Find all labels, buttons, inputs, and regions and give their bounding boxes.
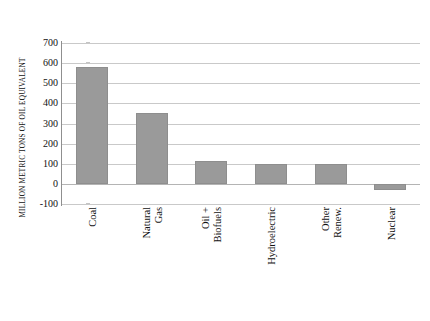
y-tick-label: 700	[43, 38, 58, 48]
x-axis-category-labels: CoalNaturalGasOil +BiofuelsHydroelectric…	[62, 207, 420, 317]
y-tick-label: 600	[43, 58, 58, 68]
category-label-line: Renew.	[332, 207, 343, 238]
category-label-line: Natural	[141, 207, 152, 239]
category-label-line: Coal	[87, 207, 98, 227]
bar-series	[62, 43, 420, 204]
category-label: Nuclear	[386, 207, 397, 240]
bar	[374, 184, 406, 190]
category-label-line: Oil +	[200, 207, 211, 229]
bar	[255, 164, 287, 184]
category-label: NaturalGas	[141, 207, 164, 239]
category-label: Oil +Biofuels	[200, 207, 223, 243]
y-tick-label: 100	[43, 159, 58, 169]
category-label-line: Gas	[153, 207, 164, 223]
category-label: OtherRenew.	[320, 207, 343, 238]
category-label: Coal	[87, 207, 98, 227]
bar	[315, 164, 347, 184]
y-tick-label: 400	[43, 98, 58, 108]
y-axis-tick-labels: 7006005004003002001000-100	[28, 39, 58, 204]
category-label-line: Biofuels	[212, 207, 223, 243]
bar-chart-figure: MILLION METRIC TONS OF OIL EQUIVALENT 70…	[0, 0, 430, 321]
y-tick-label: 300	[43, 119, 58, 129]
plot-area	[62, 43, 420, 204]
bar	[195, 161, 227, 184]
y-tick-label: 0	[53, 179, 58, 189]
category-label-line: Other	[320, 207, 331, 231]
category-label-line: Nuclear	[386, 207, 397, 240]
category-label: Hydroelectric	[266, 207, 277, 265]
y-tick-label: 500	[43, 78, 58, 88]
category-label-line: Hydroelectric	[266, 207, 277, 265]
y-tick-label: 200	[43, 139, 58, 149]
y-tick-label: -100	[40, 199, 58, 209]
bar	[76, 67, 108, 184]
gridline	[62, 204, 420, 205]
bar	[136, 113, 168, 183]
